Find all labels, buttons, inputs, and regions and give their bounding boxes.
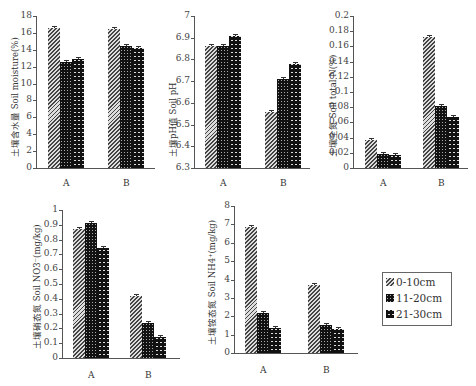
category-label: B — [323, 365, 330, 375]
bar-A-21-30cm — [97, 248, 109, 358]
y-tick-mark — [231, 353, 234, 354]
bar-B-0-10cm — [265, 112, 277, 168]
error-cap — [273, 326, 278, 327]
bar-A-0-10cm — [205, 46, 217, 168]
category-label: B — [280, 178, 287, 188]
bar-B-21-30cm — [154, 337, 166, 358]
y-tick-mark — [33, 67, 36, 68]
bar-B-11-20cm — [277, 79, 289, 168]
y-tick-mark — [33, 100, 36, 101]
error-cap — [158, 335, 163, 336]
y-tick-mark — [191, 146, 194, 147]
y-tick-mark — [350, 77, 353, 78]
error-cap — [233, 34, 238, 35]
error-cap — [269, 110, 274, 111]
y-tick-mark — [191, 103, 194, 104]
y-tick-mark — [350, 16, 353, 17]
y-axis — [353, 16, 354, 168]
y-tick-label: 16 — [2, 27, 32, 37]
y-axis-label: 土壤pH值 Soil pH — [166, 83, 178, 158]
y-tick-mark — [59, 225, 62, 226]
y-tick-mark — [33, 168, 36, 169]
bar-A-11-20cm — [257, 313, 269, 353]
hatch-swatch-icon — [386, 278, 394, 286]
legend: 0-10cm 11-20cm 21-30cm — [382, 272, 452, 326]
error-cap — [393, 153, 398, 154]
y-tick-mark — [191, 125, 194, 126]
category-label: A — [88, 370, 95, 380]
category-label: A — [220, 178, 227, 188]
bar-B-0-10cm — [423, 37, 435, 168]
y-tick-label: 0.18 — [319, 25, 349, 35]
bar-A-11-20cm — [377, 154, 389, 168]
y-tick-mark — [350, 153, 353, 154]
y-tick-mark — [191, 168, 194, 169]
bar-A-21-30cm — [389, 155, 401, 168]
y-tick-label: 0 — [28, 352, 58, 362]
y-tick-label: 18 — [2, 10, 32, 20]
y-tick-mark — [33, 33, 36, 34]
bar-B-21-30cm — [447, 117, 459, 168]
error-cap — [293, 62, 298, 63]
bar-A-21-30cm — [72, 59, 84, 168]
category-label: A — [63, 178, 70, 188]
category-label: B — [438, 178, 445, 188]
x-axis — [36, 168, 155, 169]
bar-B-21-30cm — [332, 329, 344, 353]
error-cap — [451, 115, 456, 116]
error-cap — [89, 221, 94, 222]
x-axis — [194, 168, 310, 169]
x-axis — [62, 358, 180, 359]
bar-B-21-30cm — [132, 48, 144, 168]
y-tick-mark — [33, 134, 36, 135]
bar-B-11-20cm — [120, 46, 132, 168]
category-label: B — [123, 178, 130, 188]
y-tick-mark — [59, 314, 62, 315]
error-cap — [427, 35, 432, 36]
y-tick-mark — [33, 50, 36, 51]
y-tick-mark — [231, 298, 234, 299]
bar-B-11-20cm — [435, 106, 447, 168]
y-tick-label: 0 — [319, 162, 349, 172]
error-cap — [439, 104, 444, 105]
bar-B-0-10cm — [108, 29, 120, 168]
error-cap — [76, 57, 81, 58]
y-axis-label: 土壤含水量 Soil moisture(%) — [8, 37, 20, 157]
y-tick-mark — [231, 224, 234, 225]
y-tick-mark — [33, 151, 36, 152]
y-tick-mark — [59, 240, 62, 241]
y-tick-mark — [59, 328, 62, 329]
bar-A-11-20cm — [217, 46, 229, 168]
legend-item-21-30cm: 21-30cm — [386, 308, 442, 320]
error-cap — [52, 26, 57, 27]
error-cap — [77, 227, 82, 228]
y-tick-mark — [191, 38, 194, 39]
y-tick-label: 6.8 — [160, 53, 190, 63]
bar-B-11-20cm — [142, 323, 154, 358]
y-tick-mark — [59, 254, 62, 255]
x-axis — [234, 353, 358, 354]
y-tick-label: 6.9 — [160, 32, 190, 42]
y-tick-mark — [350, 122, 353, 123]
x-axis — [353, 168, 468, 169]
bar-A-21-30cm — [269, 328, 281, 353]
error-cap — [324, 323, 329, 324]
error-cap — [64, 60, 69, 61]
y-tick-label: 0.2 — [319, 10, 349, 20]
error-cap — [369, 138, 374, 139]
y-tick-mark — [59, 358, 62, 359]
y-tick-label: 0.16 — [319, 40, 349, 50]
y-tick-mark — [59, 269, 62, 270]
y-tick-label: 0 — [2, 162, 32, 172]
y-tick-mark — [59, 284, 62, 285]
y-tick-mark — [231, 243, 234, 244]
bar-A-0-10cm — [73, 229, 85, 359]
error-cap — [124, 44, 129, 45]
bar-B-0-10cm — [308, 285, 320, 353]
y-tick-mark — [231, 280, 234, 281]
legend-label: 11-20cm — [396, 292, 442, 304]
brick-swatch-icon — [386, 310, 394, 318]
y-tick-mark — [350, 46, 353, 47]
y-tick-mark — [350, 168, 353, 169]
error-cap — [134, 294, 139, 295]
